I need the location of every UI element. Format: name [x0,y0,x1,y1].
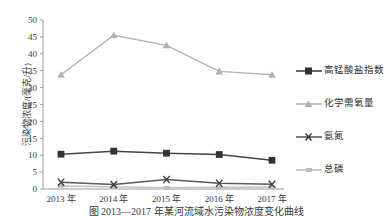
legend-marker-square [296,63,322,75]
svg-text:20: 20 [28,117,38,127]
legend-item-2[interactable]: 氨氮 [296,118,392,151]
legend-marker-triangle [296,96,322,108]
svg-text:2015 年: 2015 年 [152,193,181,204]
svg-text:2017 年: 2017 年 [257,193,286,204]
chart-legend: 高锰酸盐指数 化学需氧量 氨氮 [296,52,392,184]
svg-text:25: 25 [28,100,38,110]
svg-text:5: 5 [33,167,38,177]
legend-item-0[interactable]: 高锰酸盐指数 [296,52,392,85]
legend-label-1: 化学需氧量 [322,95,374,109]
svg-text:45: 45 [28,32,38,42]
legend-label-3: 总磷 [322,161,344,175]
svg-text:40: 40 [28,49,38,59]
legend-item-1[interactable]: 化学需氧量 [296,85,392,118]
legend-label-0: 高锰酸盐指数 [322,62,384,76]
svg-text:50: 50 [28,15,38,25]
svg-text:2013 年: 2013 年 [46,193,75,204]
svg-text:15: 15 [28,134,38,144]
legend-marker-x [296,129,322,141]
legend-label-2: 氨氮 [322,128,344,142]
figure-container: 污染物浓度/(毫克/升) 051015202530354045502013 年2… [0,0,392,216]
svg-text:2014 年: 2014 年 [99,193,128,204]
svg-text:10: 10 [28,150,38,160]
svg-text:0: 0 [33,184,38,194]
svg-text:30: 30 [28,83,38,93]
legend-item-3[interactable]: 总磷 [296,151,392,184]
figure-caption: 图 2013—2017 年某河流域水污染物浓度变化曲线 [0,203,392,216]
svg-text:2016 年: 2016 年 [205,193,234,204]
svg-text:35: 35 [28,66,38,76]
legend-marker-dash [296,162,322,174]
